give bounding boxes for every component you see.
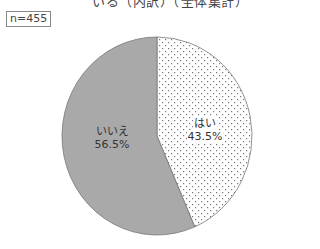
slice-label-yes-name: はい xyxy=(193,117,217,130)
slice-label-no: いいえ 56.5% xyxy=(88,125,136,151)
slice-label-no-pct: 56.5% xyxy=(88,138,136,151)
slice-label-yes: はい 43.5% xyxy=(185,117,225,143)
slice-label-yes-pct: 43.5% xyxy=(187,130,224,143)
slice-label-no-name: いいえ xyxy=(88,125,136,138)
